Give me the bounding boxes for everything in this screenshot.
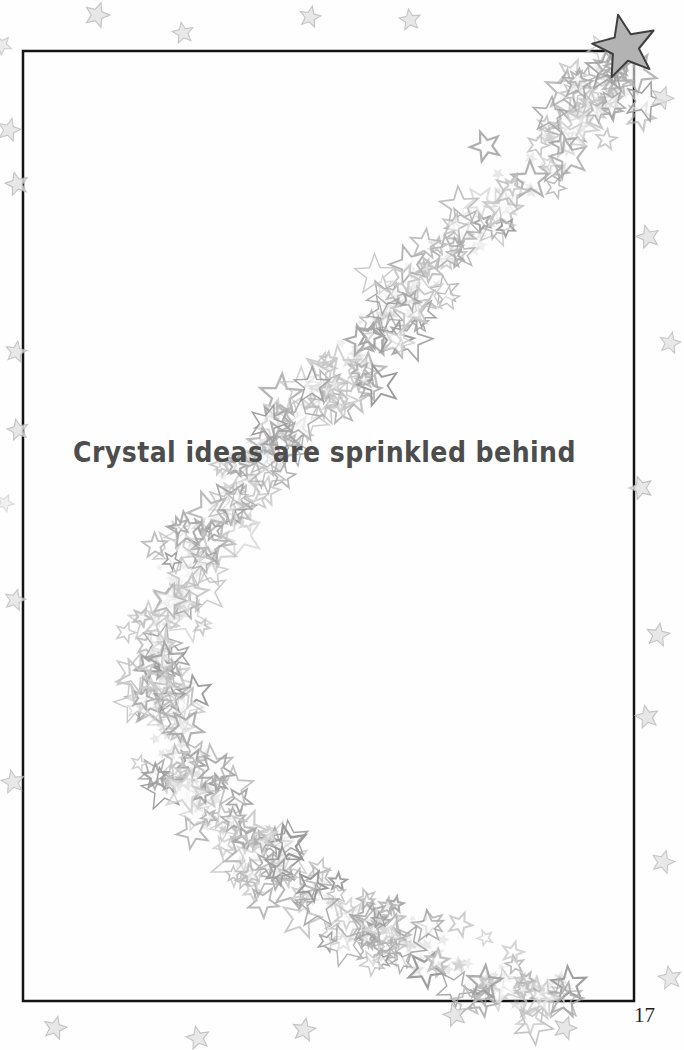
trail-star — [330, 873, 347, 890]
margin-star — [0, 495, 14, 512]
trail-star — [284, 899, 322, 938]
margin-star — [629, 477, 651, 500]
margin-star — [1, 770, 24, 793]
margin-star — [653, 851, 675, 874]
trail-texture-star — [156, 564, 163, 571]
trail-star — [117, 623, 136, 643]
trail-star — [449, 913, 472, 937]
trail-star — [165, 745, 188, 767]
margin-star — [172, 22, 193, 43]
margin-star — [301, 6, 321, 27]
star-trail-artwork — [0, 0, 684, 1050]
trail-texture-star — [492, 168, 505, 181]
star-trail — [114, 26, 665, 1045]
margin-star — [555, 1017, 577, 1040]
trail-star — [176, 817, 207, 849]
margin-star — [186, 1026, 208, 1049]
trail-star — [477, 930, 492, 945]
trail-star — [132, 755, 147, 771]
trail-star — [360, 952, 384, 976]
margin-star — [293, 1018, 316, 1041]
caption-text: Crystal ideas are sprinkled behind — [73, 436, 576, 469]
margin-star — [647, 623, 670, 646]
trail-texture-star — [149, 733, 160, 745]
margin-star — [635, 705, 657, 728]
margin-star — [661, 332, 681, 353]
page-number: 17 — [634, 1003, 674, 1028]
trail-star — [547, 178, 566, 198]
trail-star — [503, 942, 523, 963]
book-page: Crystal ideas are sprinkled behind 17 — [0, 0, 684, 1050]
trail-star — [596, 129, 616, 149]
trail-star — [142, 533, 167, 557]
margin-star — [658, 966, 681, 989]
margin-star — [636, 225, 658, 248]
margin-star — [399, 9, 420, 30]
margin-star — [443, 1003, 465, 1026]
margin-star — [87, 3, 111, 28]
trail-star — [470, 132, 499, 162]
margin-star — [0, 37, 11, 56]
margin-star — [0, 118, 21, 141]
trail-texture-star — [462, 957, 474, 969]
margin-star — [7, 419, 27, 440]
margin-star — [45, 1016, 67, 1039]
